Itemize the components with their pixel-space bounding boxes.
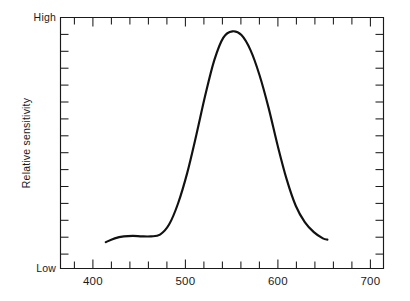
y-axis-ticks <box>61 34 69 254</box>
y-label-low: Low <box>36 262 56 274</box>
spectral-sensitivity-chart: 400 500 600 700 High Low Relative sensit… <box>0 0 410 301</box>
x-tick-label-500: 500 <box>176 275 196 287</box>
y-label-high: High <box>34 11 56 23</box>
y-axis-title: Relative sensitivity <box>20 97 32 188</box>
x-axis-ticks <box>74 260 370 269</box>
plot-frame <box>61 18 384 269</box>
y-axis-right-ticks <box>376 34 384 254</box>
chart-svg: 400 500 600 700 High Low Relative sensit… <box>0 0 410 301</box>
x-tick-label-600: 600 <box>268 275 288 287</box>
x-tick-label-700: 700 <box>361 275 381 287</box>
sensitivity-curve <box>106 31 328 242</box>
x-tick-label-400: 400 <box>83 275 103 287</box>
x-axis-top-ticks <box>74 18 370 27</box>
axis-frame <box>61 18 384 269</box>
